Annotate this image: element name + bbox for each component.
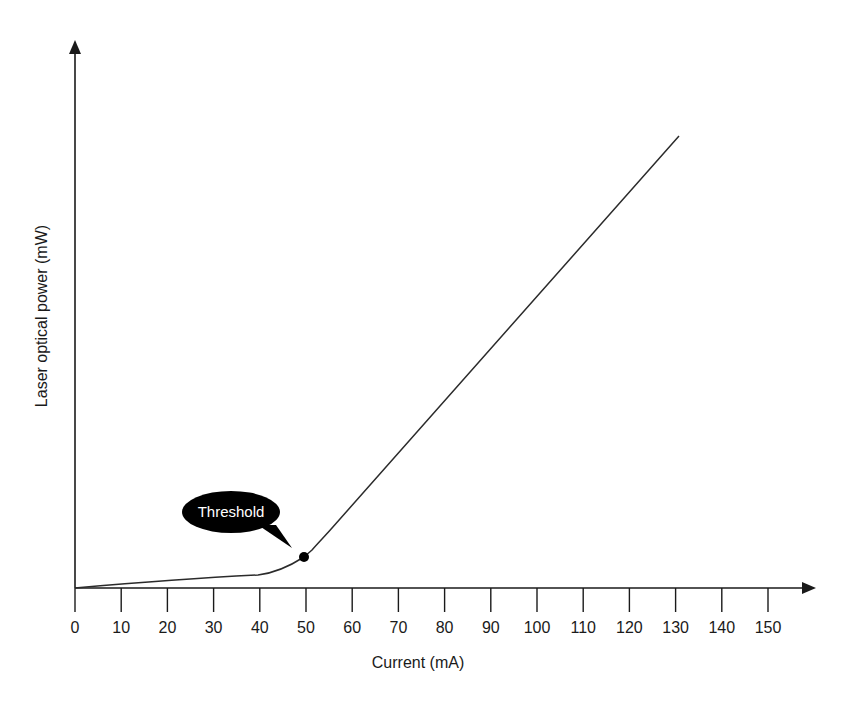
x-tick-label: 60 [343,619,361,636]
x-tick-label: 0 [71,619,80,636]
y-axis-arrow-icon [69,40,81,54]
threshold-label: Threshold [198,503,265,520]
x-tick-label: 120 [616,619,643,636]
x-tick-label: 150 [755,619,782,636]
laser-li-chart: 0102030405060708090100110120130140150 Th… [0,0,845,705]
x-tick-label: 80 [436,619,454,636]
x-tick-label: 130 [662,619,689,636]
x-axis-label: Current (mA) [372,654,464,671]
y-axis-label: Laser optical power (mW) [33,225,50,407]
x-tick-label: 110 [570,619,596,636]
x-axis-arrow-icon [802,582,816,594]
x-tick-label: 140 [708,619,735,636]
li-curve [75,136,679,588]
threshold-marker [299,552,309,562]
x-tick-label: 20 [159,619,177,636]
x-ticks: 0102030405060708090100110120130140150 [71,588,782,636]
x-tick-label: 90 [482,619,500,636]
x-tick-label: 100 [524,619,551,636]
x-tick-label: 70 [390,619,408,636]
x-tick-label: 30 [205,619,223,636]
x-tick-label: 40 [251,619,269,636]
threshold-callout: Threshold [182,491,292,548]
x-tick-label: 50 [297,619,315,636]
x-tick-label: 10 [112,619,130,636]
